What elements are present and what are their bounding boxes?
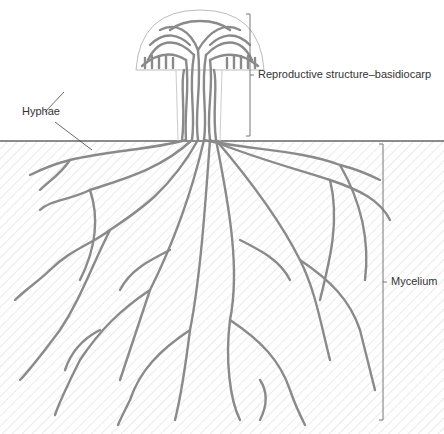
hyphae-label: Hyphae xyxy=(22,105,60,117)
mushroom-diagram: Hyphae Reproductive structure–basidiocar… xyxy=(0,0,444,434)
diagram-graphic xyxy=(0,0,444,434)
basidiocarp-label: Reproductive structure–basidiocarp xyxy=(258,68,431,80)
mycelium-label: Mycelium xyxy=(391,275,437,287)
